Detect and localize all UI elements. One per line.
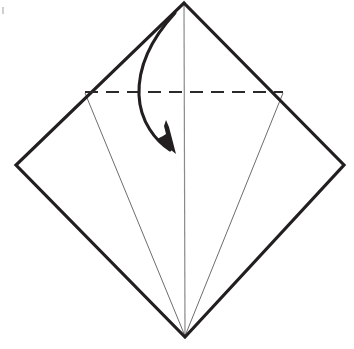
paper-speck-mark (2, 7, 4, 14)
origami-diagram-container: Origami fold step diagram Square sheet r… (0, 0, 354, 349)
origami-diagram-svg: Origami fold step diagram Square sheet r… (0, 0, 354, 349)
